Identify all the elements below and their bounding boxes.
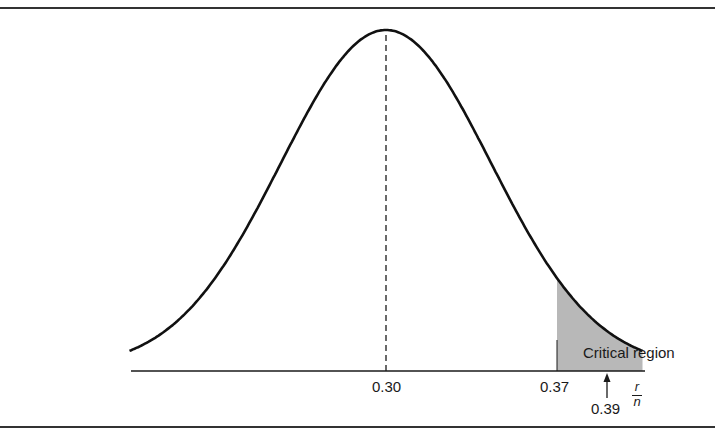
tick-label-critical: 0.37: [540, 378, 569, 395]
observed-value-arrow-icon: [604, 373, 611, 398]
critical-region-label: Critical region: [583, 344, 675, 361]
plot-area: [0, 0, 715, 442]
normal-distribution-figure: 0.30 0.37 Critical region 0.39 r n: [0, 0, 715, 442]
tick-label-mean: 0.30: [372, 378, 401, 395]
axis-label-denominator: n: [631, 396, 643, 408]
axis-label-numerator: r: [631, 381, 643, 393]
observed-value-label: 0.39: [591, 400, 620, 417]
